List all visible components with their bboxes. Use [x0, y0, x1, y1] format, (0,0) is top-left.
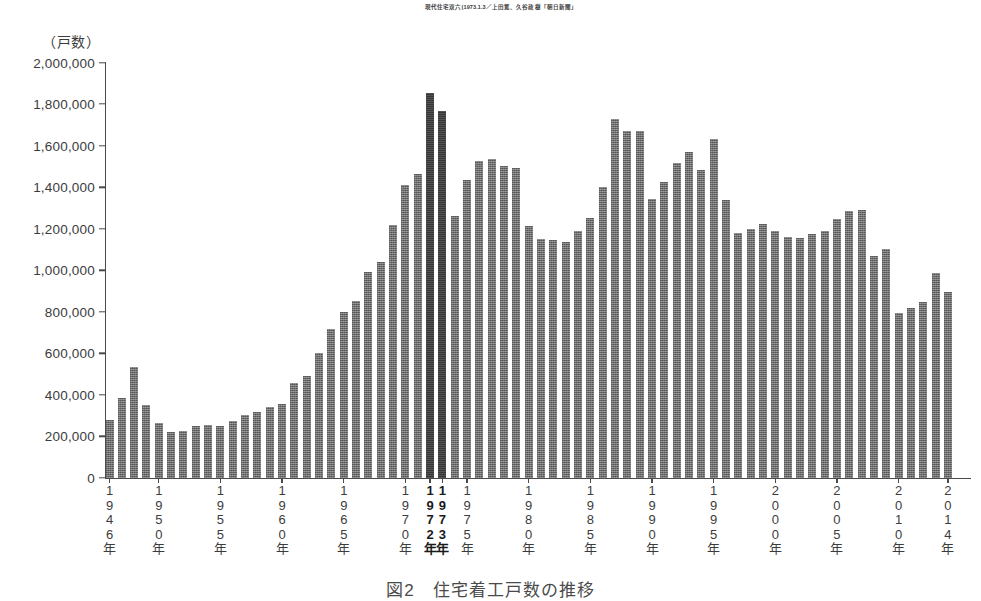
- x-tick-label-1995: 1995年: [705, 484, 723, 557]
- x-tick-label-char: 9: [402, 499, 409, 514]
- x-tick-label-char: 1: [439, 484, 446, 499]
- x-tick-label-char: 9: [106, 499, 113, 514]
- bar-1979: [512, 168, 520, 478]
- x-tick-label-1946: 1946年: [101, 484, 119, 557]
- x-tick-label-char: 年: [646, 542, 659, 557]
- x-tick-label-char: 1: [340, 484, 347, 499]
- x-tick-label-char: 9: [340, 499, 347, 514]
- x-tick-label-char: 年: [769, 542, 782, 557]
- x-tick-label-1973: 1973年: [433, 484, 451, 557]
- x-tick-label-char: 5: [833, 528, 840, 543]
- bar-1948: [130, 367, 138, 478]
- x-tick-label-1965: 1965年: [335, 484, 353, 557]
- bar-1966: [352, 301, 360, 478]
- bar-1974: [451, 216, 459, 478]
- x-tick-label-2010: 2010年: [890, 484, 908, 557]
- bar-1987: [611, 119, 619, 478]
- bar-1971: [414, 174, 422, 478]
- bar-1961: [290, 383, 298, 478]
- bar-1985: [586, 218, 594, 478]
- bar-1969: [389, 225, 397, 478]
- x-tick-label-char: 1: [587, 484, 594, 499]
- bar-2000: [771, 231, 779, 478]
- bar-1951: [167, 432, 175, 478]
- x-tick-label-char: 年: [941, 542, 954, 557]
- x-tick-label-char: 9: [710, 513, 717, 528]
- bar-1954: [204, 425, 212, 478]
- x-tick-label-1980: 1980年: [520, 484, 538, 557]
- x-tick-label-char: 9: [648, 513, 655, 528]
- x-tick-label-char: 2: [895, 484, 902, 499]
- bar-1988: [623, 131, 631, 478]
- x-tick-label-2014: 2014年: [939, 484, 957, 557]
- x-tick-label-char: 7: [402, 513, 409, 528]
- x-tick-label-char: 0: [772, 513, 779, 528]
- x-tick-label-char: 年: [103, 542, 116, 557]
- bar-1976: [475, 161, 483, 478]
- bar-2011: [907, 308, 915, 478]
- x-tick-label-1950: 1950年: [150, 484, 168, 557]
- bar-1957: [241, 415, 249, 478]
- bar-1973: [438, 111, 446, 478]
- bar-2012: [919, 302, 927, 478]
- x-tick-label-char: 0: [895, 528, 902, 543]
- bar-1991: [660, 182, 668, 478]
- x-tick-label-char: 9: [217, 499, 224, 514]
- x-tick-label-char: 年: [337, 542, 350, 557]
- x-tick-label-char: 0: [648, 528, 655, 543]
- x-tick-label-char: 9: [463, 499, 470, 514]
- x-tick-label-char: 年: [830, 542, 843, 557]
- x-tick-label-char: 1: [710, 484, 717, 499]
- x-tick-label-char: 1: [106, 484, 113, 499]
- x-tick-label-char: 5: [463, 528, 470, 543]
- bar-1977: [488, 159, 496, 478]
- bar-2005: [833, 219, 841, 478]
- bar-1958: [253, 412, 261, 478]
- x-tick-label-char: 3: [439, 528, 446, 543]
- x-tick-label-char: 9: [648, 499, 655, 514]
- bar-1981: [537, 239, 545, 478]
- bar-2003: [808, 234, 816, 478]
- x-tick-label-char: 1: [525, 484, 532, 499]
- x-tick-label-char: 6: [340, 513, 347, 528]
- x-tick-label-char: 6: [106, 528, 113, 543]
- x-tick-label-char: 1: [402, 484, 409, 499]
- bar-1975: [463, 180, 471, 478]
- x-tick-label-char: 0: [772, 528, 779, 543]
- x-tick-label-char: 1: [278, 484, 285, 499]
- x-tick-label-char: 4: [106, 513, 113, 528]
- bar-2008: [870, 256, 878, 478]
- x-tick-label-char: 0: [402, 528, 409, 543]
- x-tick-label-char: 8: [525, 513, 532, 528]
- bar-2001: [784, 237, 792, 478]
- bar-1992: [673, 163, 681, 478]
- bar-1955: [216, 426, 224, 478]
- bar-2014: [944, 292, 952, 478]
- x-tick-label-char: 年: [584, 542, 597, 557]
- x-tick-label-1970: 1970年: [396, 484, 414, 557]
- x-tick-label-char: 6: [278, 513, 285, 528]
- bar-1993: [685, 152, 693, 478]
- x-tick-label-char: 0: [833, 513, 840, 528]
- bar-1956: [229, 421, 237, 478]
- x-tick-label-2000: 2000年: [766, 484, 784, 557]
- x-tick-label-char: 7: [463, 513, 470, 528]
- x-tick-label-1955: 1955年: [211, 484, 229, 557]
- x-tick-label-char: 1: [155, 484, 162, 499]
- x-tick-label-char: 0: [944, 499, 951, 514]
- bar-1996: [722, 200, 730, 478]
- x-tick-label-char: 2: [833, 484, 840, 499]
- x-tick-label-char: 年: [461, 542, 474, 557]
- x-tick-label-char: 9: [155, 499, 162, 514]
- x-tick-label-char: 4: [944, 528, 951, 543]
- bar-1970: [401, 185, 409, 478]
- bar-1994: [697, 170, 705, 479]
- bar-1960: [278, 404, 286, 478]
- bar-1998: [747, 229, 755, 478]
- bar-1963: [315, 353, 323, 478]
- bar-1967: [364, 272, 372, 478]
- x-tick-label-char: 0: [895, 499, 902, 514]
- x-tick-label-1990: 1990年: [643, 484, 661, 557]
- x-tick-label-char: 1: [895, 513, 902, 528]
- bar-1953: [192, 426, 200, 478]
